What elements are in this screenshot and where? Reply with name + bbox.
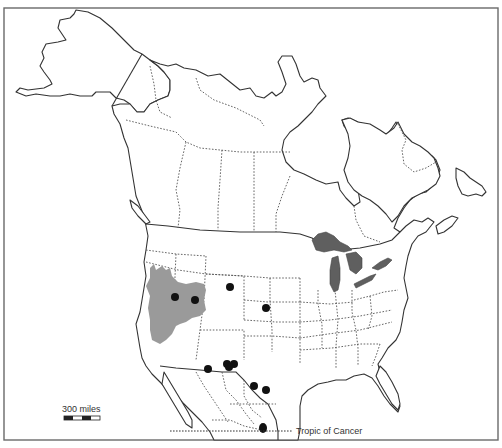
occurrence-point [191,296,199,304]
north-america-map: Tropic of Cancer 300 miles [0,0,502,448]
alaska-landmass [16,10,170,112]
nova-scotia [436,216,458,234]
scale-bar: 300 miles [62,404,101,420]
occurrence-point [262,304,270,312]
newfoundland [456,168,486,196]
occurrence-point [226,283,234,291]
scale-bar-label: 300 miles [62,404,101,414]
tropic-of-cancer-label: Tropic of Cancer [296,426,362,436]
occurrence-point [171,293,179,301]
occurrence-point [262,386,270,394]
occurrence-point [204,365,212,373]
lake-michigan [330,256,340,292]
occurrence-point [250,382,258,390]
occurrence-point [225,363,233,371]
